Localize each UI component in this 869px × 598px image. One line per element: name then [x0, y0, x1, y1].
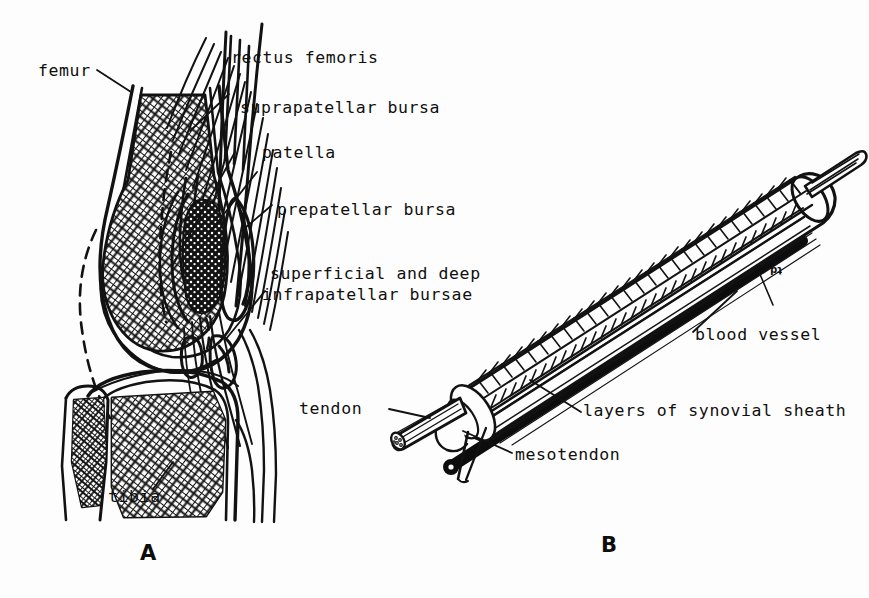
artist-mark: td — [770, 265, 782, 276]
label-tendon: tendon — [299, 398, 362, 420]
panel-letter-b: B — [601, 533, 617, 557]
label-rectus-femoris: rectus femoris — [231, 47, 378, 69]
label-layers-of-synovial-sheath: layers of synovial sheath — [583, 400, 846, 422]
label-infrapatellar-bursae-line1: superficial and deep — [270, 263, 481, 284]
label-infrapatellar-bursae-line2: infrapatellar bursae — [262, 284, 473, 305]
label-suprapatellar-bursa: suprapatellar bursa — [240, 97, 440, 119]
label-prepatellar-bursa: prepatellar bursa — [277, 199, 456, 221]
joint-capsule-lines — [236, 330, 276, 522]
panel-b-group — [388, 151, 866, 482]
label-patella: patella — [262, 142, 336, 164]
panel-letter-a: A — [140, 541, 156, 565]
label-mesotendon: mesotendon — [515, 444, 620, 466]
label-femur: femur — [38, 60, 91, 82]
label-tibia: tibia — [108, 486, 161, 508]
anatomy-figure: femur rectus femoris suprapatellar bursa… — [0, 0, 869, 598]
label-blood-vessel: blood vessel — [695, 324, 821, 346]
